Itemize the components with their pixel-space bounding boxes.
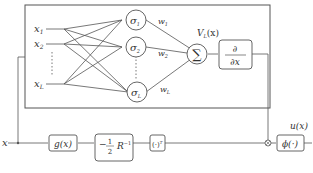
value-function-label: VL(x) [197,28,219,39]
gain-block: − 1 2 R−1 [95,134,133,161]
svg-text:1: 1 [108,138,112,146]
input-lines [8,20,312,143]
summation-node: ∑ [187,44,207,64]
g-block: g(x) [49,135,77,151]
neuron-1: σ1 [126,10,146,30]
transpose-block: (·)T [150,135,165,151]
svg-text:∑: ∑ [192,47,202,62]
branch-point [17,142,19,144]
input-x1-label: x1 [34,23,43,35]
neural-network-control-diagram: x1 x2 xL σ1 σ2 σL w1 w2 wL ∑ VL(x) ∂ ∂x … [0,0,313,173]
svg-text:∂: ∂ [233,44,238,54]
neuron-2: σ2 [126,37,146,57]
input-x-label: x [2,137,8,148]
output-u-label: u(x) [290,121,308,131]
multiply-node [265,140,271,146]
phi-block: ϕ(·) [277,135,304,151]
partial-derivative-block: ∂ ∂x [219,40,252,69]
svg-text:ϕ(·): ϕ(·) [282,139,299,149]
svg-text:2: 2 [108,148,112,156]
svg-text:−: − [99,139,107,149]
weight-w1: w1 [158,17,168,27]
weight-wL: wL [160,85,171,95]
svg-text:g(x): g(x) [54,139,72,149]
input-x2-label: x2 [34,38,44,50]
neuron-L: σL [127,82,147,102]
svg-text:∂x: ∂x [230,57,240,67]
input-xL-label: xL [34,78,44,90]
weight-w2: w2 [158,49,168,59]
